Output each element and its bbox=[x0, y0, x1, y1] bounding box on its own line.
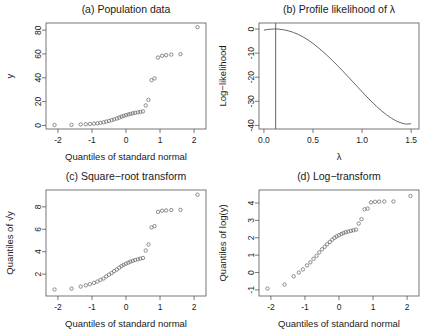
data-point bbox=[92, 281, 95, 284]
data-point bbox=[318, 251, 321, 254]
data-point bbox=[383, 200, 386, 203]
data-point bbox=[84, 123, 87, 126]
y-tick-label: 6 bbox=[33, 227, 43, 232]
x-tick-label: -2 bbox=[267, 302, 275, 312]
data-point bbox=[156, 210, 159, 213]
data-point bbox=[70, 123, 73, 126]
plot-frame bbox=[46, 190, 206, 296]
data-point bbox=[301, 268, 304, 271]
data-point bbox=[409, 194, 412, 197]
data-point bbox=[373, 200, 376, 203]
data-point bbox=[160, 209, 163, 212]
data-point bbox=[84, 284, 87, 287]
data-point bbox=[170, 53, 173, 56]
x-tick-label: 0 bbox=[124, 135, 129, 145]
data-point bbox=[297, 271, 300, 274]
data-point bbox=[369, 201, 372, 204]
likelihood-curve bbox=[264, 29, 411, 124]
x-tick-label: -2 bbox=[54, 135, 62, 145]
x-tick-label: 0.0 bbox=[258, 135, 270, 145]
data-point bbox=[156, 56, 159, 59]
x-tick-label: 1 bbox=[158, 302, 163, 312]
y-tick-label: 60 bbox=[33, 49, 43, 59]
y-tick-label: 2 bbox=[33, 271, 43, 276]
y-axis-label: Log−likelihood bbox=[217, 45, 228, 106]
panel-c-sqrt-transform: (c) Square−root transform-2-10122468Quan… bbox=[0, 167, 212, 334]
y-tick-label: 1 bbox=[246, 253, 256, 258]
data-point bbox=[179, 208, 182, 211]
y-tick-label: 0 bbox=[33, 123, 43, 128]
x-tick-label: 1 bbox=[371, 302, 376, 312]
data-point bbox=[153, 77, 156, 80]
data-point bbox=[292, 275, 295, 278]
data-point bbox=[153, 224, 156, 227]
x-tick-label: 1.0 bbox=[356, 135, 368, 145]
x-axis-label: Quantiles of standard normal bbox=[65, 151, 187, 162]
data-point bbox=[88, 283, 91, 286]
data-point bbox=[315, 254, 318, 257]
data-point bbox=[160, 54, 163, 57]
y-axis-label: Quantiles of log(y) bbox=[217, 204, 228, 281]
y-tick-label: 8 bbox=[33, 204, 43, 209]
plot-frame bbox=[259, 190, 419, 296]
data-points bbox=[266, 194, 412, 290]
x-tick-label: -1 bbox=[88, 302, 96, 312]
y-tick-label: 4 bbox=[246, 200, 256, 205]
panel-title: (a) Population data bbox=[82, 3, 171, 15]
data-point bbox=[79, 123, 82, 126]
panel-title: (c) Square−root transform bbox=[66, 170, 187, 182]
y-tick-label: 4 bbox=[33, 249, 43, 254]
data-point bbox=[266, 287, 269, 290]
data-point bbox=[164, 53, 167, 56]
x-tick-label: -1 bbox=[88, 135, 96, 145]
data-points bbox=[53, 193, 199, 291]
data-point bbox=[377, 200, 380, 203]
data-point bbox=[88, 122, 91, 125]
x-tick-label: -1 bbox=[301, 302, 309, 312]
y-tick-label: -1 bbox=[246, 286, 256, 294]
y-tick-label: 0 bbox=[246, 26, 256, 31]
x-tick-label: 1 bbox=[158, 135, 163, 145]
x-tick-label: 2 bbox=[192, 302, 197, 312]
panel-title: (d) Log−transform bbox=[297, 170, 381, 182]
data-points bbox=[53, 25, 199, 126]
data-point bbox=[147, 243, 150, 246]
data-point bbox=[53, 123, 56, 126]
plot-frame bbox=[46, 23, 206, 129]
y-axis-label: Quantiles of √y bbox=[4, 211, 15, 275]
data-point bbox=[53, 288, 56, 291]
x-tick-label: 2 bbox=[405, 302, 410, 312]
data-point bbox=[144, 104, 147, 107]
y-tick-label: 2 bbox=[246, 235, 256, 240]
y-axis-label: y bbox=[4, 73, 15, 78]
data-point bbox=[357, 222, 360, 225]
data-point bbox=[92, 122, 95, 125]
x-tick-label: 2 bbox=[192, 135, 197, 145]
data-point bbox=[196, 25, 199, 28]
data-point bbox=[312, 257, 315, 260]
x-axis-label: Quantiles of standard normal bbox=[278, 318, 400, 329]
data-point bbox=[392, 200, 395, 203]
data-point bbox=[144, 249, 147, 252]
data-point bbox=[170, 208, 173, 211]
x-tick-label: -2 bbox=[54, 302, 62, 312]
data-point bbox=[360, 217, 363, 220]
panel-b-profile-likelihood: (b) Profile likelihood of λ0.00.51.01.50… bbox=[213, 0, 425, 167]
y-tick-label: -40 bbox=[246, 119, 256, 132]
x-tick-label: 0 bbox=[124, 302, 129, 312]
x-tick-label: 1.5 bbox=[405, 135, 417, 145]
data-point bbox=[79, 285, 82, 288]
y-tick-label: 3 bbox=[246, 218, 256, 223]
data-point bbox=[179, 53, 182, 56]
figure-panel-grid: (a) Population data-2-1012020406080Quant… bbox=[0, 0, 425, 334]
y-tick-label: 80 bbox=[33, 25, 43, 35]
x-tick-label: 0 bbox=[337, 302, 342, 312]
data-point bbox=[164, 209, 167, 212]
data-point bbox=[196, 193, 199, 196]
data-point bbox=[283, 283, 286, 286]
panel-title: (b) Profile likelihood of λ bbox=[283, 3, 396, 15]
data-point bbox=[305, 264, 308, 267]
x-axis-label: λ bbox=[337, 151, 342, 162]
y-tick-label: 20 bbox=[33, 97, 43, 107]
data-point bbox=[70, 287, 73, 290]
